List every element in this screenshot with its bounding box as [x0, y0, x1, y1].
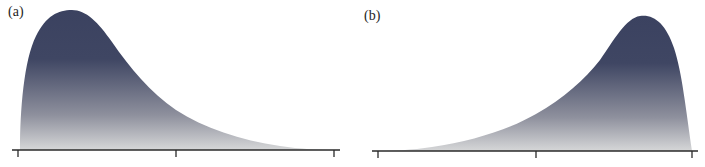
panel-a: (a) [0, 0, 352, 167]
chart-b [352, 0, 705, 167]
x-axis-a [12, 150, 340, 157]
x-axis-b [372, 151, 698, 158]
density-area-a [20, 10, 334, 150]
density-area-b [378, 16, 692, 151]
panel-b: (b) [352, 0, 705, 167]
chart-a [0, 0, 352, 167]
